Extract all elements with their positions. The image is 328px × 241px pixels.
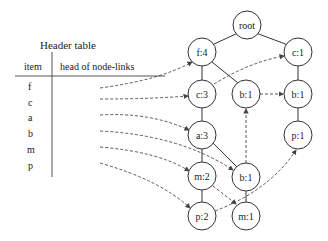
link-p (100, 163, 190, 208)
tree-node-p1: p:1 (284, 121, 312, 149)
svg-text:b:1: b:1 (292, 89, 305, 100)
link-m2-m1 (213, 186, 236, 204)
tree-node-f4: f:4 (188, 38, 216, 66)
link-f (100, 62, 192, 88)
tree-node-root: root (233, 11, 261, 39)
link-c3-c1 (214, 56, 284, 84)
svg-text:m:1: m:1 (238, 211, 254, 222)
tree-node-b1-upper: b:1 (232, 80, 260, 108)
tree-node-m2: m:2 (188, 162, 216, 190)
svg-text:c:3: c:3 (196, 89, 208, 100)
svg-text:p:1: p:1 (292, 130, 305, 141)
svg-text:a:3: a:3 (196, 130, 208, 141)
link-m (100, 147, 189, 171)
svg-text:f:4: f:4 (196, 47, 207, 58)
tree-node-c3: c:3 (188, 80, 216, 108)
svg-text:b:1: b:1 (240, 89, 253, 100)
svg-text:root: root (239, 20, 255, 31)
link-a (100, 115, 189, 130)
tree-node-a3: a:3 (188, 121, 216, 149)
tree-node-c1: c:1 (284, 38, 312, 66)
tree-node-b1-right: b:1 (284, 80, 312, 108)
svg-text:c:1: c:1 (292, 47, 304, 58)
svg-text:p:2: p:2 (196, 211, 209, 222)
fp-tree-diagram: root f:4 c:1 c:3 b:1 b:1 a:3 p:1 m:2 b:1… (0, 0, 328, 241)
link-c (100, 96, 188, 99)
svg-text:b:1: b:1 (240, 172, 253, 183)
svg-text:m:2: m:2 (194, 171, 210, 182)
tree-node-m1: m:1 (232, 202, 260, 230)
tree-node-p2: p:2 (188, 202, 216, 230)
tree-node-b1-lower: b:1 (232, 163, 260, 191)
